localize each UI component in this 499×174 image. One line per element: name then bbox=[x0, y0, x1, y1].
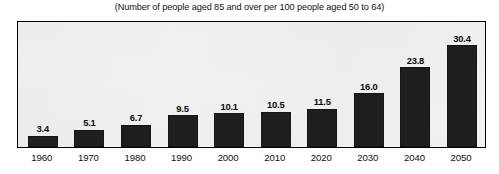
bar bbox=[74, 130, 104, 147]
bar bbox=[28, 136, 58, 147]
x-tick-label-2000: 2000 bbox=[205, 151, 252, 164]
x-tick-label-1990: 1990 bbox=[158, 151, 205, 164]
bar bbox=[307, 109, 337, 147]
bar-value-label: 10.1 bbox=[206, 102, 253, 112]
bar bbox=[354, 93, 384, 147]
bar-value-label: 6.7 bbox=[113, 113, 160, 123]
bar-value-label: 30.4 bbox=[439, 34, 486, 44]
bar-value-label: 23.8 bbox=[392, 56, 439, 66]
bar-value-label: 3.4 bbox=[20, 124, 67, 134]
bar bbox=[447, 45, 477, 147]
bar-value-label: 5.1 bbox=[66, 118, 113, 128]
plot-frame: 3.45.16.79.510.110.511.516.023.830.4 bbox=[17, 21, 486, 148]
bar bbox=[261, 112, 291, 147]
chart-figure: (Number of people aged 85 and over per 1… bbox=[0, 0, 499, 174]
x-tick-label-2050: 2050 bbox=[438, 151, 485, 164]
x-tick-label-2040: 2040 bbox=[391, 151, 438, 164]
bar bbox=[168, 115, 198, 147]
bar bbox=[400, 67, 430, 147]
x-tick-label-2020: 2020 bbox=[298, 151, 345, 164]
chart-title: (Number of people aged 85 and over per 1… bbox=[0, 1, 499, 13]
bar bbox=[214, 113, 244, 147]
bar-value-label: 16.0 bbox=[346, 82, 393, 92]
x-axis-tick-labels: 1960197019801990200020102020203020402050 bbox=[17, 151, 486, 167]
bar-value-label: 10.5 bbox=[252, 100, 299, 110]
bar-value-label: 11.5 bbox=[299, 97, 346, 107]
x-tick-label-1960: 1960 bbox=[19, 151, 66, 164]
x-tick-label-1970: 1970 bbox=[65, 151, 112, 164]
bar-value-label: 9.5 bbox=[159, 104, 206, 114]
x-tick-label-2010: 2010 bbox=[251, 151, 298, 164]
bar bbox=[121, 125, 151, 147]
plot-area: 3.45.16.79.510.110.511.516.023.830.4 bbox=[18, 22, 485, 147]
x-tick-label-1980: 1980 bbox=[112, 151, 159, 164]
x-tick-label-2030: 2030 bbox=[345, 151, 392, 164]
